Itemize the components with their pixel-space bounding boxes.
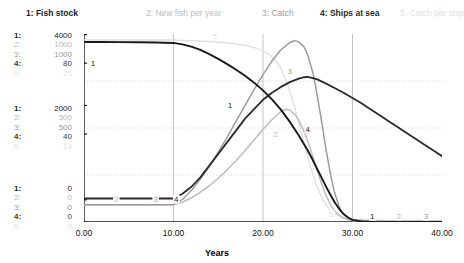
x-tick-label-1: 10.00 bbox=[159, 228, 189, 238]
y-axis-index-5-bottom: 5: bbox=[14, 222, 26, 231]
y-axis-group-bottom: 1:02:03:04:05:0 bbox=[14, 184, 76, 234]
y-axis-group-mid: 1:20002:5003:5004:405:14 bbox=[14, 104, 76, 154]
curve-tag-5-11: 5 bbox=[212, 34, 217, 41]
curve-tag-3-6: 3 bbox=[153, 195, 158, 204]
y-axis-index-2-mid: 2: bbox=[14, 113, 26, 122]
x-tick-label-3: 30.00 bbox=[338, 228, 368, 238]
y-axis-value-5-bottom: 0 bbox=[26, 222, 72, 231]
y-axis-value-5-top: 25 bbox=[26, 69, 72, 78]
y-axis-value-5-mid: 14 bbox=[26, 142, 72, 151]
curve-tag-2-3: 2 bbox=[114, 195, 119, 204]
x-axis-title: Years bbox=[205, 248, 229, 258]
y-axis-value-4-mid: 40 bbox=[26, 132, 72, 141]
curve-tag-3-7: 3 bbox=[288, 67, 293, 76]
y-axis-index-5-mid: 5: bbox=[14, 142, 26, 151]
y-axis-index-1-mid: 1: bbox=[14, 104, 26, 113]
y-axis-group-top: 1:40002:10003:10004:805:25 bbox=[14, 31, 76, 81]
curve-tag-3-8: 3 bbox=[424, 212, 429, 221]
y-axis-index-3-mid: 3: bbox=[14, 123, 26, 132]
legend-item-1: 1: Fish stock bbox=[26, 8, 78, 19]
curve-tag-2-5: 2 bbox=[397, 212, 402, 221]
y-axis-index-1-top: 1: bbox=[14, 31, 26, 40]
legend-item-4: 4: Ships at sea bbox=[320, 8, 380, 19]
y-axis-value-3-bottom: 0 bbox=[26, 203, 72, 212]
y-axis-index-2-bottom: 2: bbox=[14, 193, 26, 202]
y-axis-index-3-bottom: 3: bbox=[14, 203, 26, 212]
y-axis-index-4-mid: 4: bbox=[14, 132, 26, 141]
x-tick-label-0: 0.00 bbox=[69, 228, 99, 238]
chart-legend: 1: Fish stock2: New fish per year3: Catc… bbox=[0, 8, 455, 22]
legend-item-2: 2: New fish per year bbox=[146, 8, 222, 19]
y-axis-value-3-top: 1000 bbox=[26, 50, 72, 59]
y-axis-index-5-top: 5: bbox=[14, 69, 26, 78]
y-axis-value-3-mid: 500 bbox=[26, 123, 72, 132]
legend-item-5: 5: Catch per ship bbox=[400, 8, 464, 19]
y-axis-value-2-mid: 500 bbox=[26, 113, 72, 122]
y-axis-index-4-bottom: 4: bbox=[14, 212, 26, 221]
y-axis-value-1-top: 4000 bbox=[26, 31, 72, 40]
y-axis-value-4-top: 80 bbox=[26, 59, 72, 68]
curve-tag-2-4: 2 bbox=[273, 130, 278, 139]
curve-tag-1-2: 1 bbox=[370, 212, 375, 221]
y-axis-value-1-bottom: 0 bbox=[26, 184, 72, 193]
y-axis-index-1-bottom: 1: bbox=[14, 184, 26, 193]
curve-tag-4-9: 4 bbox=[174, 195, 179, 204]
plot-area: 1112223334455 bbox=[84, 34, 442, 222]
y-axis-value-4-bottom: 0 bbox=[26, 212, 72, 221]
curve-tag-4-10: 4 bbox=[306, 125, 311, 134]
y-axis-value-1-mid: 2000 bbox=[26, 104, 72, 113]
y-axis-value-2-bottom: 0 bbox=[26, 193, 72, 202]
y-axis-value-2-top: 1000 bbox=[26, 40, 72, 49]
legend-item-3: 3: Catch bbox=[262, 8, 294, 19]
y-axis-index-3-top: 3: bbox=[14, 50, 26, 59]
x-tick-label-2: 20.00 bbox=[248, 228, 278, 238]
chart-canvas: 1112223334455 bbox=[84, 34, 442, 222]
curve-tag-5-12: 5 bbox=[329, 210, 334, 219]
curve-tag-1-0: 1 bbox=[91, 59, 96, 68]
y-axis-index-4-top: 4: bbox=[14, 59, 26, 68]
y-axis-index-2-top: 2: bbox=[14, 40, 26, 49]
x-tick-label-4: 40.00 bbox=[427, 228, 457, 238]
curve-tag-1-1: 1 bbox=[228, 101, 233, 110]
